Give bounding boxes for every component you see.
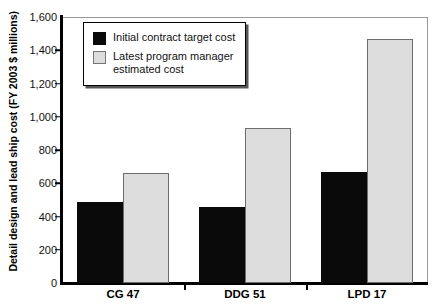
y-tick-mark [55,249,62,251]
y-tick-label: 0 [11,277,57,289]
legend-swatch-light-icon [93,51,106,64]
legend-label: Initial contract target cost [113,31,235,44]
bar [321,172,367,283]
x-axis-separator-tick [184,283,186,290]
legend-item-initial-contract-target-cost: Initial contract target cost [93,31,235,45]
x-category-label: DDG 51 [224,288,266,300]
bar [77,202,123,283]
legend-label: Latest program manager estimated cost [113,50,233,76]
y-tick-mark [55,149,62,151]
y-tick-mark [55,216,62,218]
bar [199,207,245,283]
y-tick-label: 600 [11,177,57,189]
bar [245,128,291,283]
y-tick-label: 1,200 [11,78,57,90]
bar [123,173,169,283]
y-tick-mark [55,116,62,118]
y-tick-label: 1,000 [11,111,57,123]
x-category-label: LPD 17 [348,288,387,300]
y-tick-label: 200 [11,244,57,256]
legend-swatch-dark-icon [93,32,106,45]
y-tick-mark [55,83,62,85]
x-category-label: CG 47 [106,288,139,300]
y-tick-mark [55,183,62,185]
y-tick-label: 400 [11,211,57,223]
y-axis-title: Detail design and lead ship cost (FY 200… [0,0,26,283]
bar [367,39,413,283]
y-tick-label: 800 [11,144,57,156]
chart-legend: Initial contract target cost Latest prog… [83,22,246,86]
y-tick-mark [55,50,62,52]
bar-chart-figure: Detail design and lead ship cost (FY 200… [0,0,439,306]
y-tick-label: 1,600 [11,11,57,23]
legend-item-latest-program-manager-estimated-cost: Latest program manager estimated cost [93,50,235,76]
x-axis-separator-tick [306,283,308,290]
y-tick-label: 1,400 [11,44,57,56]
